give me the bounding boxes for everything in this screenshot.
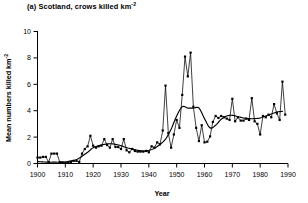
- data-point-marker: [206, 141, 208, 143]
- data-point-marker: [114, 146, 116, 148]
- data-point-marker: [87, 145, 89, 147]
- x-axis-title: Year: [154, 189, 169, 198]
- data-point-marker: [228, 119, 230, 121]
- data-point-marker: [251, 97, 253, 99]
- data-point-marker: [148, 151, 150, 153]
- data-point-marker: [39, 156, 41, 158]
- x-tick-label-1950: 1950: [169, 171, 185, 178]
- data-point-marker: [181, 94, 183, 96]
- x-tick-label-1900: 1900: [30, 171, 46, 178]
- data-point-marker: [212, 121, 214, 123]
- data-point-marker: [215, 115, 217, 117]
- data-point-marker: [142, 151, 144, 153]
- data-point-marker: [195, 127, 197, 129]
- data-point-marker: [237, 116, 239, 118]
- data-point-marker: [192, 106, 194, 108]
- figure-panel: (a) Scotland, crows killed km-2 0 2 4 6 …: [0, 0, 308, 203]
- y-tick-label-10: 10: [23, 28, 31, 35]
- crows-killed-line-chart: 0 2 4 6 8 10 190019101920193019401950196…: [0, 0, 308, 203]
- data-point-marker: [151, 145, 153, 147]
- data-point-marker: [36, 156, 38, 158]
- data-point-marker: [209, 135, 211, 137]
- x-axis-tick-labels: 1900191019201930194019501960197019801990: [30, 171, 296, 178]
- data-point-marker: [98, 145, 100, 147]
- data-point-marker: [159, 143, 161, 145]
- x-tick-label-1940: 1940: [141, 171, 157, 178]
- y-axis-ticks: [34, 32, 38, 164]
- data-point-marker: [173, 133, 175, 135]
- data-point-marker: [128, 151, 130, 153]
- y-tick-label-0: 0: [27, 160, 31, 167]
- data-point-marker: [231, 98, 233, 100]
- data-point-marker: [95, 147, 97, 149]
- x-tick-label-1920: 1920: [85, 171, 101, 178]
- data-point-marker: [262, 115, 264, 117]
- data-point-marker: [84, 148, 86, 150]
- data-point-marker: [203, 141, 205, 143]
- x-tick-label-1960: 1960: [197, 171, 213, 178]
- data-point-marker: [234, 120, 236, 122]
- data-point-marker: [259, 133, 261, 135]
- data-point-marker: [240, 120, 242, 122]
- data-point-marker: [117, 146, 119, 148]
- data-point-marker: [45, 156, 47, 158]
- data-point-marker: [164, 85, 166, 87]
- data-point-marker: [254, 120, 256, 122]
- data-point-marker: [73, 160, 75, 162]
- data-point-marker: [187, 75, 189, 77]
- y-axis-title: Mean numbers killed km-2: [3, 54, 13, 142]
- x-tick-label-1990: 1990: [280, 171, 296, 178]
- data-point-marker: [81, 153, 83, 155]
- data-point-marker: [145, 150, 147, 152]
- data-point-marker: [103, 138, 105, 140]
- data-point-marker: [184, 55, 186, 57]
- data-point-marker: [189, 52, 191, 54]
- data-point-marker: [125, 149, 127, 151]
- data-point-marker: [64, 162, 66, 164]
- data-point-marker: [67, 161, 69, 163]
- data-point-marker: [100, 145, 102, 147]
- data-point-marker: [53, 153, 55, 155]
- data-point-marker: [248, 119, 250, 121]
- data-point-marker: [92, 145, 94, 147]
- annual-data-markers: [36, 52, 286, 164]
- data-point-marker: [61, 161, 63, 163]
- y-tick-label-2: 2: [27, 134, 31, 141]
- data-point-marker: [78, 161, 80, 163]
- data-point-marker: [198, 140, 200, 142]
- y-tick-label-8: 8: [27, 54, 31, 61]
- y-axis-title-superscript: -2: [3, 54, 9, 59]
- data-point-marker: [217, 117, 219, 119]
- data-point-marker: [265, 116, 267, 118]
- data-point-marker: [245, 118, 247, 120]
- data-point-marker: [242, 120, 244, 122]
- data-point-marker: [139, 151, 141, 153]
- data-point-marker: [276, 112, 278, 114]
- data-point-marker: [281, 81, 283, 83]
- data-point-marker: [59, 161, 61, 163]
- x-tick-label-1930: 1930: [113, 171, 129, 178]
- annual-data-line: [38, 53, 286, 163]
- data-point-marker: [273, 103, 275, 105]
- data-point-marker: [131, 148, 133, 150]
- data-point-marker: [170, 147, 172, 149]
- data-point-marker: [267, 114, 269, 116]
- data-point-marker: [48, 161, 50, 163]
- data-point-marker: [56, 153, 58, 155]
- data-point-marker: [120, 148, 122, 150]
- data-point-marker: [162, 129, 164, 131]
- data-point-marker: [89, 135, 91, 137]
- data-point-marker: [106, 144, 108, 146]
- data-point-marker: [123, 138, 125, 140]
- data-point-marker: [223, 116, 225, 118]
- data-point-marker: [167, 132, 169, 134]
- data-point-marker: [134, 150, 136, 152]
- data-point-marker: [50, 153, 52, 155]
- data-point-marker: [270, 116, 272, 118]
- data-point-marker: [201, 124, 203, 126]
- y-axis-title-main: Mean numbers killed km: [4, 59, 13, 142]
- data-point-marker: [75, 160, 77, 162]
- data-point-marker: [70, 161, 72, 163]
- data-point-marker: [156, 141, 158, 143]
- data-point-marker: [153, 147, 155, 149]
